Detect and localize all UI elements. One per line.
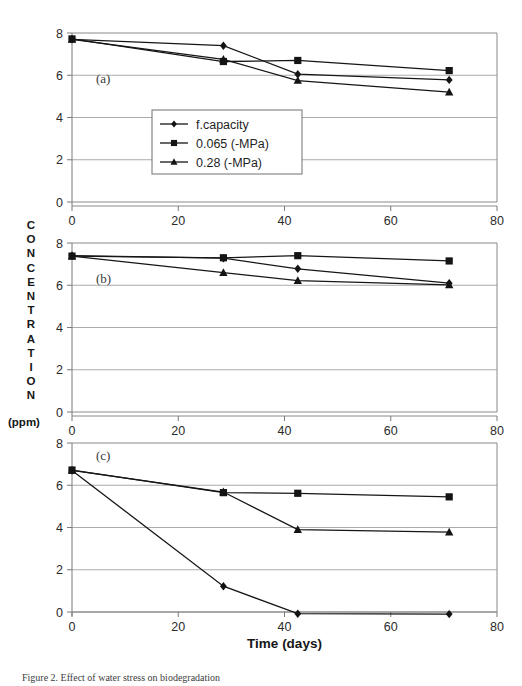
y-tick-label: 4	[56, 521, 63, 535]
y-tick-label: 2	[56, 363, 63, 377]
series-line	[72, 256, 449, 283]
data-point-marker	[220, 254, 227, 261]
legend-label: 0.28 (-MPa)	[196, 156, 262, 170]
chart-svg-b: 02468020406080(b)	[0, 225, 522, 450]
chart-svg-c: 02468020406080(c)Time (days)	[0, 428, 522, 668]
series-line	[72, 470, 449, 497]
data-point-marker	[446, 610, 453, 618]
series-line	[72, 39, 449, 80]
chart-svg-a: 02468020406080(a)f.capacity0.065 (-MPa)0…	[0, 0, 522, 240]
y-tick-label: 6	[56, 279, 63, 293]
y-tick-label: 8	[56, 437, 63, 451]
legend-label: 0.065 (-MPa)	[196, 137, 269, 151]
series-line	[72, 39, 449, 92]
data-point-marker	[294, 252, 301, 259]
y-tick-label: 4	[56, 321, 63, 335]
data-point-marker	[220, 41, 227, 49]
figure-container: CONCENTRATION (ppm) 02468020406080(a)f.c…	[0, 0, 522, 686]
data-point-marker	[294, 265, 301, 273]
y-tick-label: 0	[56, 196, 63, 210]
series-line	[72, 470, 449, 614]
x-tick-label: 80	[490, 620, 504, 634]
x-tick-label: 60	[384, 620, 398, 634]
y-tick-label: 4	[56, 111, 63, 125]
series-line	[72, 256, 449, 261]
panel-label: (c)	[96, 448, 110, 463]
data-point-marker	[446, 493, 453, 500]
series-line	[72, 39, 449, 71]
legend-label: f.capacity	[196, 118, 250, 132]
panel-label: (a)	[96, 71, 110, 86]
figure-caption: Figure 2. Effect of water stress on biod…	[22, 672, 220, 686]
chart-panel-b: 02468020406080(b)	[0, 225, 522, 450]
y-tick-label: 0	[56, 406, 63, 420]
panel-label: (b)	[96, 271, 111, 286]
data-point-marker	[294, 490, 301, 497]
data-point-marker	[220, 582, 227, 590]
data-point-marker	[446, 76, 453, 84]
data-point-marker	[446, 67, 453, 74]
y-tick-label: 2	[56, 153, 63, 167]
series-line	[72, 256, 449, 285]
legend-marker	[171, 140, 177, 146]
data-point-marker	[446, 257, 453, 264]
chart-panel-c: 02468020406080(c)Time (days)	[0, 428, 522, 668]
y-tick-label: 6	[56, 479, 63, 493]
chart-panel-a: 02468020406080(a)f.capacity0.065 (-MPa)0…	[0, 0, 522, 240]
data-point-marker	[294, 609, 301, 617]
x-tick-label: 0	[69, 620, 76, 634]
x-axis-title: Time (days)	[247, 636, 322, 651]
series-line	[72, 470, 449, 532]
y-tick-label: 2	[56, 563, 63, 577]
y-tick-label: 0	[56, 606, 63, 620]
x-tick-label: 20	[171, 620, 185, 634]
y-tick-label: 8	[56, 27, 63, 41]
y-tick-label: 8	[56, 237, 63, 251]
x-tick-label: 40	[278, 620, 292, 634]
y-tick-label: 6	[56, 69, 63, 83]
data-point-marker	[294, 57, 301, 64]
